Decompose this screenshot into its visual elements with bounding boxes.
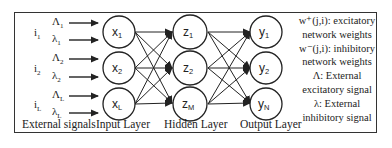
caption-input-layer: Input Layer [96, 118, 150, 130]
legend-line: excitatory signal [296, 83, 378, 97]
inhibitory-signal-1: λ1 [52, 32, 61, 47]
excitatory-signal-2: Λ2 [52, 51, 63, 66]
caption-external-signals: External signals [22, 118, 96, 130]
input-signal-i1: i1 [34, 26, 41, 41]
excitatory-signal-L: ΛL [52, 88, 64, 103]
caption-hidden-layer: Hidden Layer [164, 118, 228, 130]
excitatory-signal-1: Λ1 [52, 15, 63, 30]
legend-line: inhibitory signal [296, 111, 378, 125]
legend: w⁺(j,i): excitatory network weights w⁻(j… [296, 14, 378, 124]
input-hidden-connections [135, 32, 172, 104]
caption-output-layer: Output Layer [240, 118, 302, 130]
legend-line: network weights [296, 55, 378, 69]
legend-line: λ: External [296, 97, 378, 111]
external-signal-arrows [69, 23, 98, 113]
legend-line: w⁻(j,i): inhibitory [296, 42, 378, 56]
legend-line: Λ: External [296, 69, 378, 83]
legend-line: w⁺(j,i): excitatory [296, 14, 378, 28]
input-signal-i2: i2 [34, 62, 41, 77]
neural-network-diagram: x1 x2 xL z1 z2 zM y1 y2 yN i1 Λ1 λ1 i2 Λ… [0, 0, 392, 148]
hidden-output-connections [208, 32, 250, 104]
input-signal-iL: iL [34, 98, 41, 113]
legend-line: network weights [296, 28, 378, 42]
inhibitory-signal-2: λ2 [52, 69, 61, 84]
